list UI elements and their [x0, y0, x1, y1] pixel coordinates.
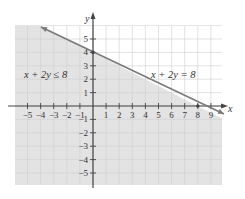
x-tick-label: −2 [62, 110, 72, 120]
y-tick-label: 3 [84, 61, 89, 71]
x-axis-arrow-icon [221, 104, 228, 109]
y-tick-label: 5 [84, 34, 89, 44]
x-tick-label: 7 [182, 110, 187, 120]
y-intercept-point [91, 51, 95, 55]
y-axis-label: y [84, 13, 90, 24]
y-axis-arrow-icon [91, 12, 96, 19]
x-axis-label: x [227, 103, 233, 114]
x-tick-label: 5 [156, 110, 161, 120]
x-tick-label: 4 [143, 110, 148, 120]
y-tick-label: −3 [78, 141, 88, 151]
x-tick-label: −3 [49, 110, 59, 120]
x-tick-label: 1 [104, 110, 109, 120]
equation-label: x + 2y = 8 [150, 69, 196, 80]
y-tick-label: 2 [84, 74, 89, 84]
y-tick-label: −4 [78, 155, 88, 165]
y-tick-label: −1 [78, 114, 88, 124]
y-tick-label: −2 [78, 128, 88, 138]
x-tick-label: 2 [117, 110, 122, 120]
x-tick-label: 3 [130, 110, 135, 120]
inequality-label: x + 2y ≤ 8 [23, 69, 68, 80]
x-tick-label: −4 [36, 110, 46, 120]
x-tick-label: −5 [23, 110, 33, 120]
x-tick-label: 9 [209, 110, 214, 120]
inequality-graph: −5−4−3−2−112345678954321−1−2−3−4−5 x y x… [0, 0, 245, 199]
y-tick-label: 1 [84, 88, 89, 98]
y-tick-label: −5 [78, 168, 88, 178]
x-intercept-point [196, 104, 200, 108]
x-tick-label: 6 [169, 110, 174, 120]
x-tick-label: 8 [196, 110, 201, 120]
